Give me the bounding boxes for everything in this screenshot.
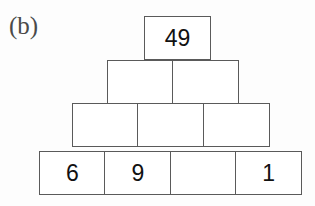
pyramid-cell-r3c3[interactable]: [203, 103, 270, 147]
pyramid-cell-r4c4[interactable]: 1: [235, 151, 302, 195]
number-pyramid: 49 6 9 1: [0, 0, 315, 206]
pyramid-row-3: [72, 103, 270, 147]
pyramid-cell-r1c1[interactable]: 49: [144, 16, 211, 60]
figure-panel: (b) 49 6 9 1: [0, 0, 315, 206]
pyramid-cell-r3c2[interactable]: [137, 103, 204, 147]
pyramid-row-4: 6 9 1: [39, 151, 302, 195]
pyramid-cell-r4c1[interactable]: 6: [39, 151, 106, 195]
pyramid-cell-r3c1[interactable]: [72, 103, 139, 147]
pyramid-cell-r4c2[interactable]: 9: [104, 151, 171, 195]
pyramid-cell-r2c2[interactable]: [172, 60, 239, 104]
pyramid-row-2: [107, 60, 239, 104]
pyramid-cell-r4c3[interactable]: [170, 151, 237, 195]
pyramid-row-1: 49: [144, 16, 211, 60]
pyramid-cell-r2c1[interactable]: [107, 60, 174, 104]
